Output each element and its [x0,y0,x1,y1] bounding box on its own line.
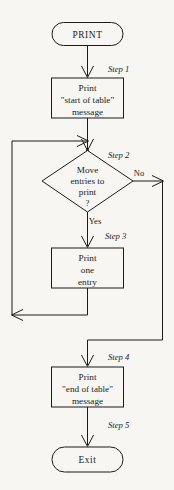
step1-line-3: message [72,107,103,117]
connector-step1-to-step2 [82,118,94,152]
step1-line-2: "start of table" [61,95,115,105]
step3-line-3: entry [78,277,97,287]
step2-line-3: print [79,187,97,197]
node-step1-process: Print "start of table" message [52,78,124,118]
connector-to-step4 [82,340,94,367]
step-label-3: Step 3 [105,231,126,241]
step4-line-2: "end of table" [62,384,113,394]
step2-line-1: Move [77,165,98,175]
step3-line-1: Print [79,253,97,263]
branch-label-yes: Yes [89,216,102,226]
node-step4-process: Print "end of table" message [52,367,124,407]
step3-line-2: one [81,265,94,275]
flowchart-svg: PRINT Step 1 Print "start of table" mess… [0,0,174,490]
step-label-4: Step 4 [108,352,130,362]
node-step3-process: Print one entry [52,248,124,288]
step-label-5: Step 5 [108,420,130,430]
node-start-terminator: PRINT [52,23,123,46]
connector-step4-to-exit [82,407,94,447]
step2-line-2: entries to [71,176,105,186]
step1-line-1: Print [79,83,97,93]
connector-start-to-step1 [82,46,94,78]
branch-label-no: No [134,168,145,178]
start-terminator-label: PRINT [72,30,102,40]
end-terminator-label: Exit [78,455,96,465]
step4-line-3: message [72,396,103,406]
step4-line-1: Print [79,372,97,382]
node-end-terminator: Exit [52,447,123,472]
step-label-2: Step 2 [108,150,130,160]
flowchart-canvas: PRINT Step 1 Print "start of table" mess… [0,0,174,490]
connector-step3-to-loopback [12,288,88,321]
step-label-1: Step 1 [108,64,129,74]
step2-question-mark: ? [86,198,90,208]
